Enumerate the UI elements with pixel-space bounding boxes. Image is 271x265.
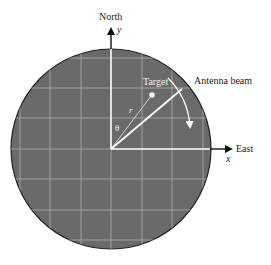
east-label: East <box>236 143 253 154</box>
antenna-beam-label: Antenna beam <box>194 75 252 86</box>
target-dot <box>149 92 155 98</box>
north-label: North <box>99 11 122 22</box>
x-axis-label: x <box>225 153 231 164</box>
radar-diagram: North y East x Antenna beam Target r θ <box>0 0 271 265</box>
y-axis-label: y <box>116 24 122 35</box>
range-label: r <box>129 105 133 115</box>
angle-label: θ <box>115 123 119 133</box>
target-label: Target <box>143 76 168 87</box>
